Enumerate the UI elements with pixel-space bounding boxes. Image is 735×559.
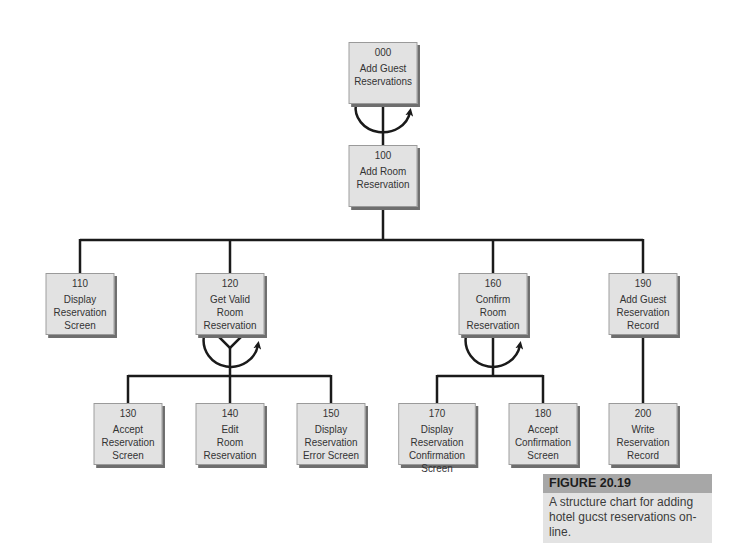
- node-170: 170 Display Reservation Confirmation Scr…: [398, 403, 475, 465]
- node-label: Edit Room Reservation: [196, 423, 263, 462]
- figure-title: FIGURE 20.19: [543, 474, 712, 493]
- node-150: 150 Display Reservation Error Screen: [297, 403, 366, 465]
- node-label: Display Reservation Confirmation Screen: [399, 423, 475, 475]
- node-label: Accept Reservation Screen: [94, 423, 161, 462]
- node-130: 130 Accept Reservation Screen: [94, 403, 163, 465]
- node-label: Accept Confirmation Screen: [509, 423, 576, 462]
- node-180: 180 Accept Confirmation Screen: [509, 403, 578, 465]
- node-number: 180: [509, 407, 576, 420]
- node-label: Get Valid Room Reservation: [196, 293, 263, 332]
- node-label: Add Guest Reservation Record: [609, 293, 676, 332]
- node-number: 100: [349, 149, 416, 162]
- node-label: Display Reservation Screen: [46, 293, 113, 332]
- node-number: 200: [609, 407, 676, 420]
- node-label: Display Reservation Error Screen: [297, 423, 364, 462]
- node-label: Confirm Room Reservation: [459, 293, 526, 332]
- node-number: 000: [349, 46, 416, 59]
- node-190: 190 Add Guest Reservation Record: [609, 273, 678, 335]
- node-000: 000 Add Guest Reservations: [349, 42, 418, 104]
- node-number: 170: [399, 407, 475, 420]
- figure-caption: FIGURE 20.19 A structure chart for addin…: [543, 474, 712, 543]
- node-number: 190: [609, 277, 676, 290]
- node-120: 120 Get Valid Room Reservation: [196, 273, 265, 335]
- node-200: 200 Write Reservation Record: [609, 403, 678, 465]
- node-100: 100 Add Room Reservation: [349, 145, 418, 207]
- node-number: 130: [94, 407, 161, 420]
- structure-chart: 000 Add Guest Reservations 100 Add Room …: [0, 0, 735, 559]
- node-number: 120: [196, 277, 263, 290]
- node-label: Add Room Reservation: [349, 165, 416, 191]
- node-160: 160 Confirm Room Reservation: [459, 273, 528, 335]
- figure-description: A structure chart for adding hotel gucst…: [543, 493, 712, 543]
- node-number: 160: [459, 277, 526, 290]
- node-number: 110: [46, 277, 113, 290]
- node-140: 140 Edit Room Reservation: [196, 403, 265, 465]
- node-label: Write Reservation Record: [609, 423, 676, 462]
- node-number: 150: [297, 407, 364, 420]
- node-110: 110 Display Reservation Screen: [46, 273, 115, 335]
- node-label: Add Guest Reservations: [349, 62, 416, 88]
- node-number: 140: [196, 407, 263, 420]
